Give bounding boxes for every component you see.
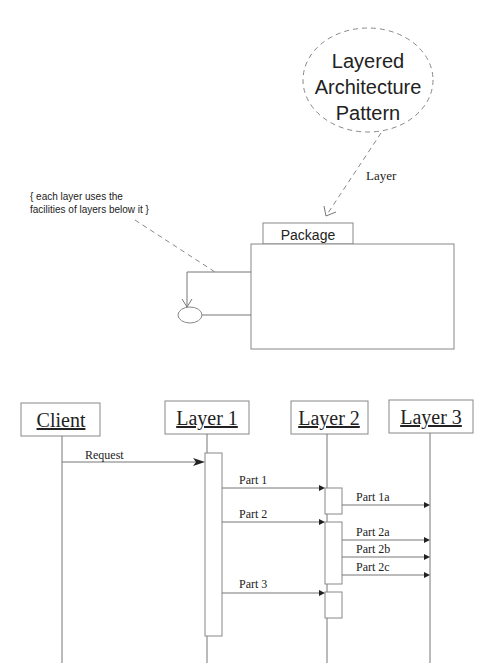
- constraint-note: { each layer uses the facilities of laye…: [30, 191, 150, 215]
- layer-interface-circle: [178, 307, 202, 323]
- note-connector-line: [135, 220, 215, 272]
- arrowhead-icon: [319, 485, 325, 491]
- message-part2a: Part 2a: [342, 525, 430, 543]
- package-body: [251, 244, 454, 349]
- activation-bar-layer2-part3: [325, 592, 342, 618]
- activation-bar-layer2-part1: [325, 488, 342, 514]
- lifeline-label-layer2: Layer 2: [298, 407, 360, 430]
- message-part1: Part 1: [222, 473, 325, 491]
- lifeline-label-client: Client: [37, 409, 86, 431]
- message-label: Part 2b: [356, 542, 390, 556]
- message-part2: Part 2: [222, 507, 325, 525]
- activation-bar-layer2-part2: [325, 522, 342, 584]
- message-part2b: Part 2b: [342, 542, 430, 560]
- arrowhead-icon: [424, 572, 430, 578]
- package-element: Package: [251, 223, 454, 349]
- note-line1: { each layer uses the: [30, 191, 123, 202]
- message-part3: Part 3: [222, 577, 325, 596]
- activation-bar-layer1: [205, 453, 222, 636]
- message-part1a: Part 1a: [342, 490, 430, 508]
- lifeline-label-layer3: Layer 3: [400, 406, 462, 429]
- pattern-title-line1: Layered: [332, 50, 404, 72]
- open-arrowhead-icon: [324, 206, 336, 216]
- message-label: Part 3: [239, 577, 267, 591]
- lifeline-layer3: Layer 3: [389, 400, 473, 663]
- message-part2c: Part 2c: [342, 560, 430, 578]
- layered-architecture-diagram: Layered Architecture Pattern Layer { eac…: [0, 0, 498, 663]
- pattern-title-line2: Architecture: [315, 76, 422, 98]
- arrowhead-icon: [424, 554, 430, 560]
- package-tab-label: Package: [281, 227, 336, 243]
- pattern-bubble: Layered Architecture Pattern: [303, 28, 433, 132]
- lifeline-label-layer1: Layer 1: [176, 407, 238, 430]
- message-request: Request: [62, 448, 205, 466]
- message-label: Part 1a: [356, 490, 390, 504]
- message-label: Part 1: [239, 473, 267, 487]
- pattern-title-line3: Pattern: [336, 102, 400, 124]
- arrowhead-icon: [424, 537, 430, 543]
- note-line2: facilities of layers below it }: [30, 204, 150, 215]
- arrowhead-icon: [319, 519, 325, 525]
- arrowhead-icon: [424, 502, 430, 508]
- message-label: Part 2c: [356, 560, 390, 574]
- message-label: Part 2: [239, 507, 267, 521]
- arrowhead-icon: [319, 590, 325, 596]
- layer-role-label: Layer: [366, 168, 397, 183]
- message-label: Part 2a: [356, 525, 390, 539]
- self-dependency-line: [187, 272, 251, 307]
- lifeline-client: Client: [21, 403, 100, 663]
- message-label: Request: [85, 448, 124, 462]
